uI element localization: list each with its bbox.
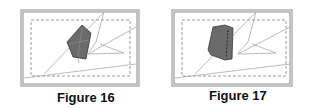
trapezoid-shape [208, 25, 233, 60]
dashed-boundary [182, 20, 286, 76]
figure-17-diagram [0, 0, 310, 90]
figure-17: Figure 17 [0, 0, 310, 108]
figure-caption: Figure 17 [209, 88, 267, 103]
